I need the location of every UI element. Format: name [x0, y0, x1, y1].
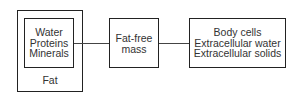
component-minerals: Minerals [24, 48, 74, 59]
ffm-line-2: mass [109, 44, 159, 55]
component-water: Water [24, 27, 74, 38]
fat-free-mass-label: Fat-free mass [109, 33, 159, 54]
cells-line-ecs: Extracellular solids [189, 48, 286, 59]
fat-label: Fat [17, 75, 83, 86]
cells-line-body-cells: Body cells [189, 27, 286, 38]
connector-components-to-ffm [74, 43, 109, 44]
components-label: Water Proteins Minerals [24, 27, 74, 59]
ffm-line-1: Fat-free [109, 33, 159, 44]
connector-ffm-to-cells [159, 43, 189, 44]
cells-label: Body cells Extracellular water Extracell… [189, 27, 286, 59]
